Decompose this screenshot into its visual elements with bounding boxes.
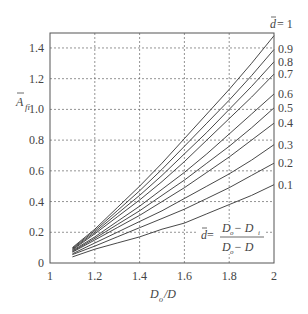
legend-eq1: = 1 (277, 17, 293, 31)
curve-label: 0.5 (278, 101, 293, 115)
annot-denominator: D − D (221, 240, 254, 254)
x-tick-label: 2 (271, 269, 277, 283)
y-tick-label: 0.2 (29, 225, 44, 239)
curve-labels: 0.90.80.70.60.50.40.30.20.1 (278, 42, 293, 191)
curve-label: 0.1 (278, 178, 293, 192)
y-label-main: A (15, 95, 24, 109)
y-label-sub: fi (25, 102, 31, 112)
line-chart: 11.21.41.61.82 00.20.40.60.81.01.21.4 0.… (0, 0, 308, 314)
y-axis-ticks: 00.20.40.60.81.01.21.4 (29, 41, 44, 270)
curve-label: 0.2 (278, 156, 293, 170)
y-tick-label: 1.2 (29, 72, 44, 86)
y-tick-label: 0.6 (29, 164, 44, 178)
y-tick-label: 0.8 (29, 133, 44, 147)
y-tick-label: 0 (38, 256, 44, 270)
x-tick-label: 1.2 (87, 269, 102, 283)
sub-o1: o (230, 229, 234, 237)
x-tick-label: 1.8 (222, 269, 237, 283)
x-axis-ticks: 11.21.41.61.82 (47, 269, 277, 283)
y-tick-label: 0.4 (29, 195, 44, 209)
y-tick-label: 1.0 (29, 102, 44, 116)
x-label-sub: o (159, 295, 163, 304)
legend-d-equals-1: d = 1 (270, 17, 293, 31)
y-axis-label: A fi (15, 93, 31, 112)
curve-d-1 (72, 36, 274, 248)
x-axis-label: D o /D (149, 287, 176, 304)
x-label-main: D (149, 287, 159, 301)
x-tick-label: 1.6 (177, 269, 192, 283)
x-label-rest: /D (163, 287, 176, 301)
curve-label: 0.6 (278, 87, 293, 101)
curve-label: 0.7 (278, 67, 293, 81)
annot-numerator: D − D (221, 221, 254, 235)
sub-i: i (258, 229, 260, 237)
curve-label: 0.4 (278, 116, 293, 130)
curve-d-0.9 (72, 50, 274, 249)
formula-annotation: d = D − D o i D − D o (196, 221, 266, 256)
y-tick-label: 1.4 (29, 41, 44, 55)
x-tick-label: 1 (47, 269, 53, 283)
legend-d: d (270, 17, 277, 31)
x-tick-label: 1.4 (132, 269, 147, 283)
curve-label: 0.3 (278, 138, 293, 152)
annot-eq: = (207, 228, 214, 242)
sub-o2: o (230, 248, 234, 256)
